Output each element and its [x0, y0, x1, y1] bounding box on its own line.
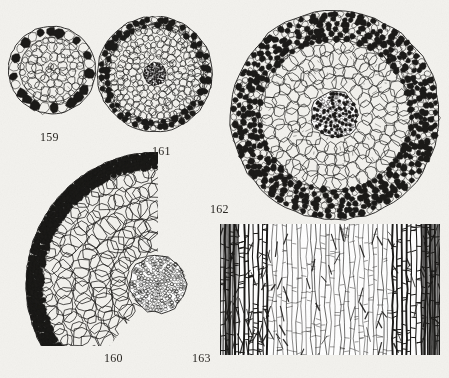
figure-163-drawing: [220, 224, 440, 355]
figure-label-162: 162: [210, 203, 229, 215]
figure-162: [228, 10, 442, 222]
figure-162-drawing: [228, 10, 442, 222]
figure-160-drawing: [14, 152, 200, 346]
figure-160: [14, 152, 200, 346]
figure-163: [220, 224, 440, 355]
figure-159: [8, 16, 98, 124]
figure-label-159: 159: [40, 131, 59, 143]
figure-label-160: 160: [104, 352, 123, 364]
figure-label-163: 163: [192, 352, 211, 364]
figure-161: [96, 16, 214, 134]
figure-label-161: 161: [152, 145, 171, 157]
botanical-plate: 159 161 162 160 163: [0, 0, 449, 378]
figure-159-drawing: [8, 16, 98, 124]
figure-161-drawing: [96, 16, 214, 134]
